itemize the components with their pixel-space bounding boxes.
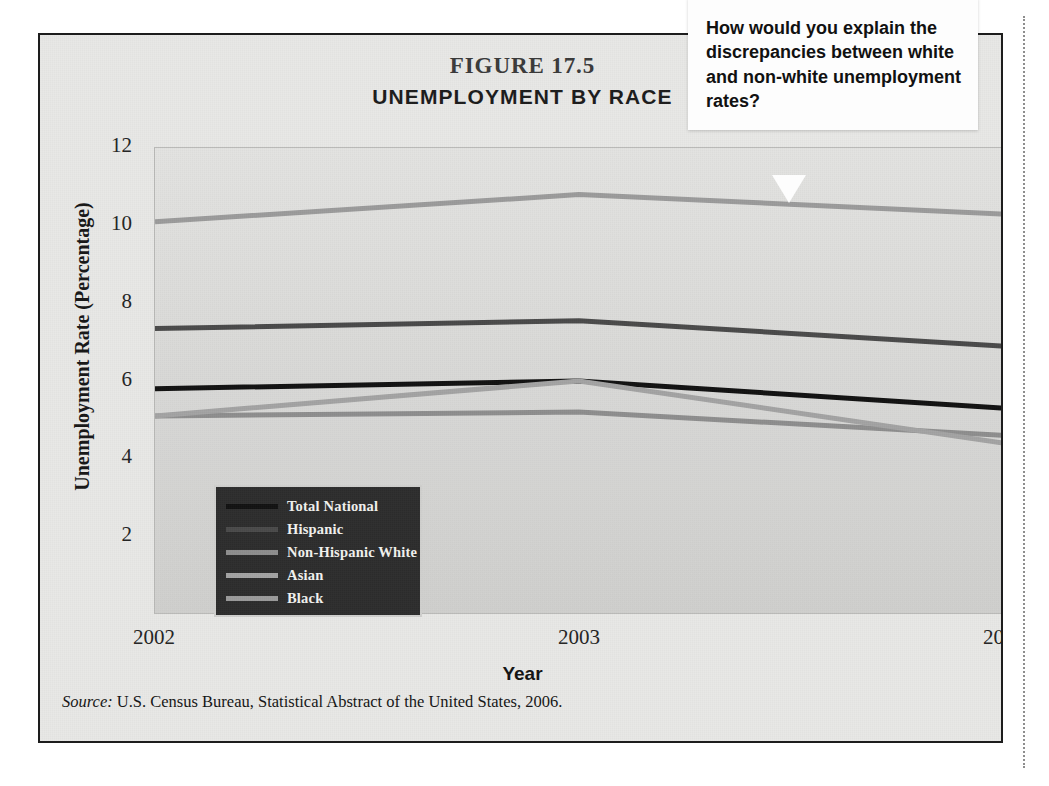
legend-item: Asian [216,564,420,587]
callout-question: How would you explain the discrepancies … [688,0,978,130]
x-axis-title: Year [40,663,1003,685]
legend-label: Asian [287,567,323,584]
y-axis-tick-2: 2 [92,522,132,547]
source-text: U.S. Census Bureau, Statistical Abstract… [117,692,562,711]
x-axis-tick-2004: 2004 [944,625,1003,650]
x-axis-tick-2003: 2003 [519,625,639,650]
series-line-hispanic [155,321,1003,346]
page-margin-rule [1023,16,1025,768]
series-line-black [155,195,1003,222]
legend-item: Non-Hispanic White [216,541,420,564]
legend-item: Total National [216,495,420,518]
legend-item: Hispanic [216,518,420,541]
legend-swatch-icon [226,527,278,532]
legend-label: Hispanic [287,521,343,538]
figure-container: FIGURE 17.5 UNEMPLOYMENT BY RACE Unemplo… [38,33,1003,743]
y-axis-tick-4: 4 [92,444,132,469]
source-label: Source: [62,692,113,711]
legend-item: Black [216,587,420,610]
y-axis-tick-10: 10 [92,211,132,236]
legend-label: Black [287,590,323,607]
chart-legend: Total NationalHispanicNon-Hispanic White… [214,485,422,617]
y-axis-tick-6: 6 [92,367,132,392]
callout-tail-icon [772,175,806,203]
y-axis-tick-12: 12 [92,133,132,158]
y-axis-title: Unemployment Rate (Percentage) [71,147,94,547]
legend-label: Non-Hispanic White [287,544,417,561]
legend-swatch-icon [226,550,278,555]
x-axis-tick-2002: 2002 [94,625,214,650]
legend-swatch-icon [226,573,278,578]
legend-label: Total National [287,498,378,515]
y-axis-tick-8: 8 [92,289,132,314]
legend-swatch-icon [226,596,278,601]
legend-swatch-icon [226,504,278,509]
source-note: Source: U.S. Census Bureau, Statistical … [62,692,562,712]
